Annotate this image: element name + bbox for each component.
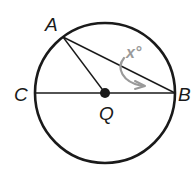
- center-point-q: [100, 88, 110, 98]
- angle-arrow-icon: [121, 58, 145, 89]
- angle-label-x: x°: [125, 44, 142, 61]
- label-a: A: [44, 14, 58, 35]
- radius-aq: [63, 37, 105, 93]
- label-c: C: [14, 84, 28, 105]
- label-b: B: [178, 84, 191, 105]
- chord-ab: [63, 37, 175, 93]
- label-q: Q: [99, 103, 114, 124]
- circle-diagram: A C B Q x°: [0, 0, 196, 178]
